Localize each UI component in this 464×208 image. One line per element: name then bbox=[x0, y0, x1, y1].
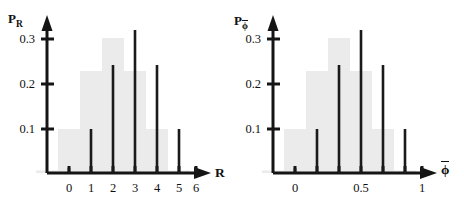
x-tick-label-left-2: 2 bbox=[102, 182, 124, 195]
x-axis-title-right: ϕ bbox=[441, 163, 449, 177]
y-tick-label-right-1: 0.2 bbox=[231, 78, 261, 91]
chart-panel-left: PR 0.1 0.2 0.3 0 1 2 3 4 5 6 R bbox=[0, 0, 232, 208]
x-tick-label-left-3: 3 bbox=[124, 182, 146, 195]
x-tick-label-right-2: 1 bbox=[411, 182, 433, 195]
y-axis-left bbox=[41, 15, 54, 173]
y-tick-label-left-2: 0.3 bbox=[5, 33, 35, 46]
y-axis-title-left-sub: R bbox=[16, 19, 23, 29]
x-tick-label-left-1: 1 bbox=[80, 182, 102, 195]
x-tick-label-left-0: 0 bbox=[58, 182, 80, 195]
y-axis-title-right-sub: ϕ bbox=[242, 22, 248, 32]
y-axis-title-left-base: P bbox=[8, 11, 16, 26]
figure-canvas: PR 0.1 0.2 0.3 0 1 2 3 4 5 6 R bbox=[0, 0, 464, 208]
chart-panel-right: Pϕ 0.1 0.2 0.3 0 0.5 1 ϕ bbox=[232, 0, 464, 208]
y-tick-label-left-0: 0.1 bbox=[5, 123, 35, 136]
x-tick-label-left-4: 4 bbox=[146, 182, 168, 195]
x-tick-label-right-1: 0.5 bbox=[350, 182, 372, 195]
overbar-glyph-xtitle bbox=[441, 161, 449, 162]
y-tick-label-left-1: 0.2 bbox=[5, 78, 35, 91]
y-axis-title-left: PR bbox=[8, 12, 23, 29]
x-tick-label-right-0: 0 bbox=[284, 182, 306, 195]
x-tick-label-left-6: 6 bbox=[185, 182, 207, 195]
x-axis-title-right-glyph: ϕ bbox=[441, 163, 449, 177]
y-axis-title-right-base: P bbox=[234, 13, 242, 28]
y-tick-label-right-2: 0.3 bbox=[231, 33, 261, 46]
overbar-glyph-ytitle bbox=[242, 20, 248, 21]
y-axis-right bbox=[267, 15, 280, 173]
plot-right-svg bbox=[232, 0, 464, 208]
y-axis-title-right: Pϕ bbox=[234, 14, 248, 31]
y-tick-label-right-0: 0.1 bbox=[231, 123, 261, 136]
x-axis-title-left: R bbox=[215, 166, 225, 180]
